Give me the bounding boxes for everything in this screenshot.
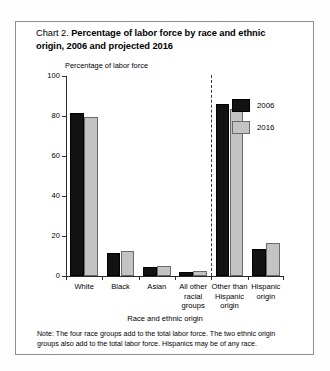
- x-tick-mark: [248, 276, 249, 280]
- bar-2006-white: [70, 113, 84, 276]
- y-tick-label: 20: [52, 231, 60, 240]
- legend-item-2006: 2006: [232, 96, 274, 114]
- x-tick-mark: [66, 276, 67, 280]
- bar-2016-black: [121, 251, 135, 276]
- y-axis-title: Percentage of labor force: [65, 61, 148, 70]
- legend-label-2006: 2006: [257, 101, 274, 110]
- legend: 2006 2016: [232, 96, 274, 140]
- bar-2006-asian: [143, 267, 157, 276]
- y-tick-label: 60: [52, 151, 60, 160]
- y-tick-mark: [62, 116, 66, 117]
- y-tick-mark: [62, 236, 66, 237]
- bar-2016-white: [84, 117, 98, 276]
- x-tick-mark: [211, 276, 212, 280]
- bar-2006-black: [107, 253, 121, 276]
- y-tick-mark: [62, 156, 66, 157]
- legend-item-2016: 2016: [232, 118, 274, 136]
- bar-2006-other-than-hispanic-origin: [216, 104, 230, 276]
- x-category-label: Hispanic origin: [244, 282, 288, 301]
- chart-page: Chart 2. Percentage of labor force by ra…: [0, 0, 330, 371]
- x-tick-mark: [102, 276, 103, 280]
- legend-label-2016: 2016: [257, 123, 274, 132]
- legend-swatch-2016-icon: [232, 121, 250, 134]
- chart-title-line-1: Percentage of labor force by race and et…: [71, 28, 265, 38]
- y-tick-label: 0: [56, 271, 60, 280]
- y-axis-line: [66, 76, 67, 276]
- bar-2006-all-other-racial-groups: [179, 272, 193, 276]
- page-title: Chart 2. Percentage of labor force by ra…: [36, 27, 286, 52]
- y-tick-label: 80: [52, 111, 60, 120]
- y-tick-label: 40: [52, 191, 60, 200]
- bar-2016-asian: [157, 266, 171, 276]
- y-tick-mark: [62, 196, 66, 197]
- legend-swatch-2006-icon: [232, 99, 250, 112]
- y-tick-label: 100: [47, 71, 60, 80]
- race-ethnicity-divider: [211, 75, 212, 276]
- bar-2016-all-other-racial-groups: [193, 271, 207, 276]
- y-tick-mark: [62, 76, 66, 77]
- x-tick-mark: [139, 276, 140, 280]
- chart-title-line-2: origin, 2006 and projected 2016: [36, 40, 286, 53]
- x-tick-mark: [175, 276, 176, 280]
- figure-note: Note: The four race groups add to the to…: [37, 330, 295, 349]
- bar-2006-hispanic-origin: [252, 249, 266, 276]
- x-tick-mark: [283, 276, 284, 280]
- x-axis-title: Race and ethnic origin: [0, 314, 330, 323]
- bar-2016-hispanic-origin: [266, 243, 280, 276]
- chart-number-label: Chart 2.: [36, 28, 69, 38]
